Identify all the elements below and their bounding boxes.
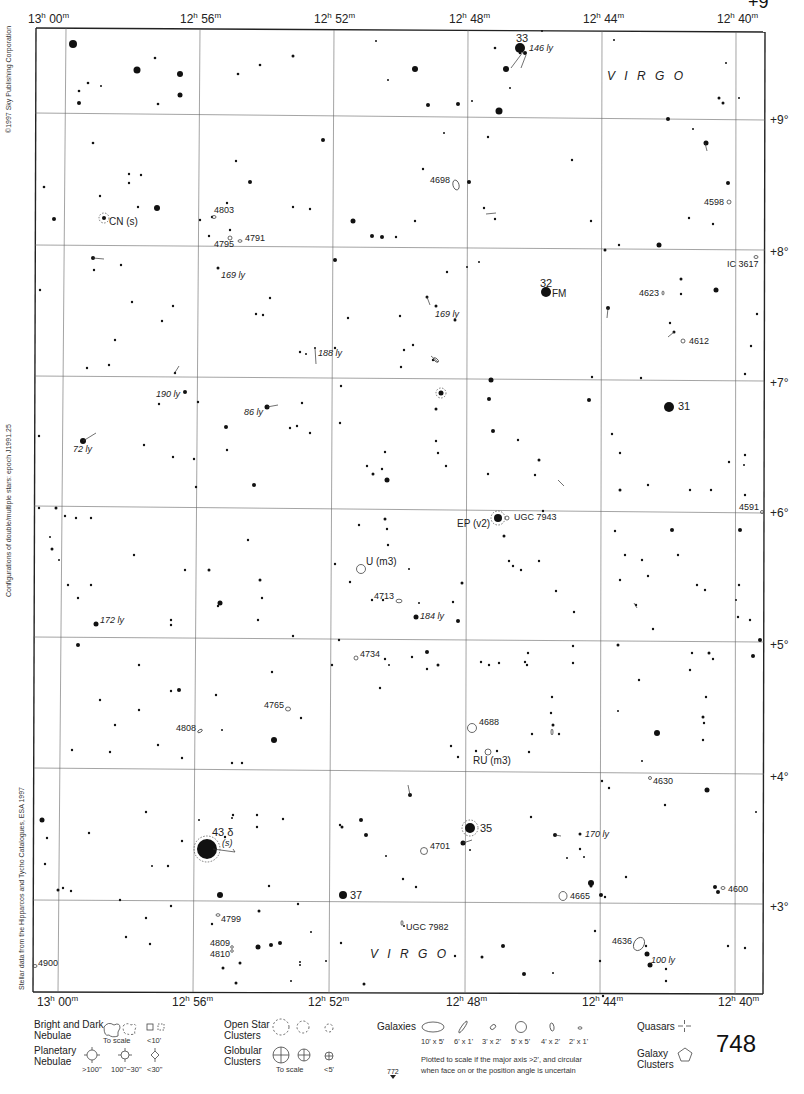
galaxy-4x2-icon [549, 1023, 554, 1032]
star [654, 730, 660, 736]
star [380, 235, 384, 239]
star [408, 568, 410, 570]
proper-motion-vector [174, 366, 179, 374]
star [478, 261, 480, 263]
legend-galaxies-title: Galaxies [377, 1021, 416, 1032]
star [552, 724, 555, 727]
star [515, 43, 525, 53]
star [90, 517, 92, 519]
star [125, 936, 127, 938]
galaxy-10x5-icon [422, 1022, 444, 1032]
star [310, 931, 312, 933]
star [151, 865, 153, 867]
star [411, 656, 413, 658]
legend-pn-large: >100" [82, 1064, 102, 1075]
legend-pn-medium: 100"−30" [111, 1064, 142, 1075]
deep-sky-label: 4803 [214, 205, 234, 215]
chart-frame [33, 28, 765, 994]
star [487, 473, 489, 475]
star [594, 930, 596, 932]
ra-tick-label: 12h 52m [314, 11, 355, 26]
star [471, 100, 473, 102]
star [256, 945, 261, 950]
star-designation: 43 δ [212, 826, 233, 838]
star-designation: FM [552, 288, 566, 299]
star [624, 554, 626, 556]
star [412, 66, 418, 72]
star [271, 671, 273, 673]
legend-galaxy-size: 4' x 2' [541, 1036, 560, 1047]
star [384, 451, 386, 453]
star [268, 885, 270, 887]
star [403, 349, 405, 351]
star [224, 425, 228, 429]
star [437, 664, 440, 667]
star-designation: CN (s) [109, 216, 138, 227]
star [76, 643, 80, 647]
star [689, 489, 691, 491]
ra-tick-label: 12h 52m [308, 994, 349, 1009]
star [572, 662, 574, 664]
star [446, 271, 448, 273]
star [443, 132, 445, 134]
star [590, 220, 592, 222]
star [641, 559, 643, 561]
star [619, 579, 621, 581]
copyright-note: ©1997 Sky Publishing Corporation [5, 26, 12, 133]
dec-tick-label: +8° [770, 245, 788, 259]
star [664, 804, 666, 806]
star [137, 206, 139, 208]
star [399, 315, 401, 317]
star [339, 891, 347, 899]
star [579, 848, 581, 850]
star [217, 892, 223, 898]
star [601, 780, 603, 782]
star [145, 811, 147, 813]
deep-sky-label: 4791 [245, 233, 265, 243]
star [572, 645, 574, 647]
legend-quasars: Quasars [637, 1021, 675, 1032]
star [445, 465, 447, 467]
star [296, 425, 298, 427]
open-cluster-large-icon [273, 1019, 289, 1035]
star [305, 353, 307, 355]
star [454, 955, 456, 957]
continuation-page[interactable]: 772 [387, 1066, 399, 1077]
open-cluster-medium-icon [297, 1021, 309, 1033]
proper-motion-vector [427, 297, 430, 305]
star [154, 205, 160, 211]
star [657, 243, 662, 248]
star [157, 103, 160, 106]
star [128, 173, 130, 175]
ra-tick-label: 12h 44m [582, 994, 623, 1009]
star [177, 71, 183, 77]
star [509, 87, 511, 89]
star [114, 339, 116, 341]
dec-tick-label: +9° [770, 113, 788, 127]
star [334, 563, 336, 565]
star [705, 696, 707, 698]
star [90, 584, 92, 586]
star [339, 422, 341, 424]
star [744, 373, 746, 375]
star [508, 560, 510, 562]
distance-label: 169 ly [221, 270, 246, 280]
deep-sky-label: 4598 [704, 197, 724, 207]
star [422, 168, 424, 170]
proper-motion-vector [486, 213, 496, 214]
planetary-nebula-medium-icon [121, 1051, 129, 1059]
star [138, 709, 140, 711]
star-designation: RU (m3) [473, 755, 511, 766]
star [573, 611, 575, 613]
star [292, 206, 294, 208]
star [193, 458, 195, 460]
star [691, 652, 693, 654]
star [494, 47, 497, 50]
star [726, 181, 730, 185]
star [199, 219, 201, 221]
star [211, 923, 213, 925]
configurations-note: Configurations of double/multiple stars:… [5, 424, 12, 597]
star [403, 925, 405, 927]
dec-tick-label: +6° [770, 506, 788, 520]
ra-tick-label: 12h 40m [718, 994, 759, 1009]
